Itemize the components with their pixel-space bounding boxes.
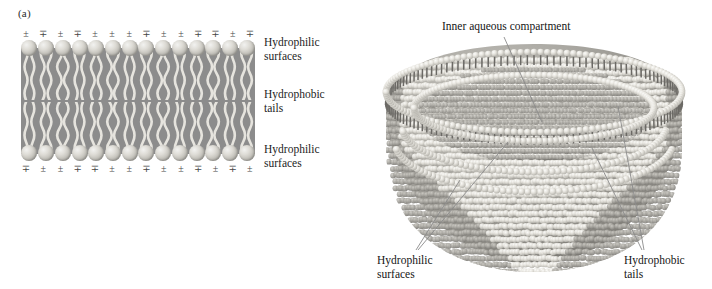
charge-symbol: ± <box>176 164 186 174</box>
head-group-bead <box>449 122 456 129</box>
head-group-bead <box>452 268 458 274</box>
head-group-bead <box>658 58 664 64</box>
head-group-bead <box>398 57 404 63</box>
head-group-bead <box>637 242 643 248</box>
head-group-bead <box>666 141 672 147</box>
head-group-bead <box>653 224 659 230</box>
head-group-bead <box>570 50 577 57</box>
panel-a-letter: (a) <box>18 7 31 19</box>
head-group-bead <box>531 49 538 56</box>
head-group-bead <box>674 64 680 70</box>
head-group-bead <box>548 67 553 72</box>
head-group-bead <box>383 89 390 96</box>
head-group-bead <box>662 57 668 63</box>
head-group-bead <box>680 121 686 127</box>
head-group-bead <box>436 262 442 268</box>
head-group-bead <box>487 173 493 179</box>
head-group-bead <box>630 242 636 248</box>
head-group-bead <box>557 268 563 274</box>
head-group-bead <box>669 192 675 198</box>
head-group-bead <box>397 64 403 70</box>
head-group <box>222 145 238 161</box>
head-group-bead <box>658 217 664 223</box>
head-group-bead <box>558 154 563 159</box>
head-group <box>205 40 221 56</box>
head-group-bead <box>444 56 451 63</box>
charge-symbol: ± <box>55 164 65 174</box>
head-group-bead <box>581 67 586 72</box>
charge-symbol: ± <box>21 29 31 39</box>
label-hydrophilic-surfaces-bottom: Hydrophilic surfaces <box>264 143 320 170</box>
head-group-bead <box>458 261 464 267</box>
head-group-bead <box>434 249 440 255</box>
charge-symbol: ∓ <box>142 29 152 39</box>
head-group-bead <box>589 91 594 96</box>
head-group-bead <box>449 55 456 62</box>
head-group-bead <box>446 249 452 255</box>
head-group-bead <box>665 57 671 63</box>
head-group-bead <box>570 127 577 134</box>
head-group-bead <box>428 243 434 249</box>
label-hydrophilic-surfaces-top: Hydrophilic surfaces <box>264 36 320 63</box>
head-group-bead <box>596 262 602 268</box>
head-group-bead <box>517 129 524 136</box>
head-group-bead <box>616 268 622 274</box>
head-group-bead <box>498 50 505 57</box>
bilayer-diagram <box>21 40 255 162</box>
charge-symbol: ∓ <box>38 29 48 39</box>
head-group-bead <box>597 182 604 189</box>
head-group-bead <box>648 229 654 235</box>
head-group-bead <box>586 184 593 191</box>
charge-symbol: ± <box>124 164 134 174</box>
head-group-bead <box>549 188 556 195</box>
head-group-bead <box>604 262 610 268</box>
head-group-bead <box>419 237 425 243</box>
head-group-bead <box>414 58 420 64</box>
head-group-bead <box>593 261 599 267</box>
head-group-bead <box>656 57 662 63</box>
hydrophobic-tails-graphic <box>21 40 255 162</box>
head-group-bead <box>442 256 448 262</box>
head-group-bead <box>645 57 651 63</box>
charge-symbol: ± <box>159 164 169 174</box>
head-group <box>38 145 54 161</box>
head-group <box>205 145 221 161</box>
head-group-bead <box>575 269 581 275</box>
head-group-bead <box>563 269 569 275</box>
head-group-bead <box>500 91 505 96</box>
charge-row-bottom: ∓±±∓∓±±∓±±∓±∓± <box>21 164 255 174</box>
head-group-bead <box>524 189 531 196</box>
head-group-bead <box>393 146 400 153</box>
head-group-bead <box>641 237 647 243</box>
head-group-bead <box>543 188 550 195</box>
head-group-bead <box>531 189 538 196</box>
head-group-bead <box>518 188 525 195</box>
head-group <box>172 145 188 161</box>
head-group-bead <box>445 256 451 262</box>
head-group-bead <box>520 149 525 154</box>
head-group-bead <box>551 49 558 56</box>
charge-symbol: ± <box>245 164 255 174</box>
head-group-bead <box>504 231 510 237</box>
head-group-bead <box>504 243 510 249</box>
head-group-bead <box>439 255 445 261</box>
head-group-bead <box>467 53 474 60</box>
head-group-bead <box>506 188 513 195</box>
head-group-bead <box>464 143 469 148</box>
head-group <box>155 40 171 56</box>
head-group-bead <box>481 185 488 192</box>
head-group-bead <box>435 255 441 261</box>
head-group <box>189 40 205 56</box>
head-group-bead <box>524 236 530 242</box>
charge-symbol: ± <box>176 29 186 39</box>
head-group <box>105 40 121 56</box>
head-group-bead <box>504 49 511 56</box>
head-group-bead <box>592 120 597 125</box>
head-group-bead <box>612 122 619 129</box>
head-group-bead <box>581 255 587 261</box>
head-group-bead <box>512 188 519 195</box>
head-group-bead <box>520 114 525 119</box>
head-group-bead <box>455 123 462 130</box>
head-group-bead <box>461 262 467 268</box>
head-group <box>55 145 71 161</box>
